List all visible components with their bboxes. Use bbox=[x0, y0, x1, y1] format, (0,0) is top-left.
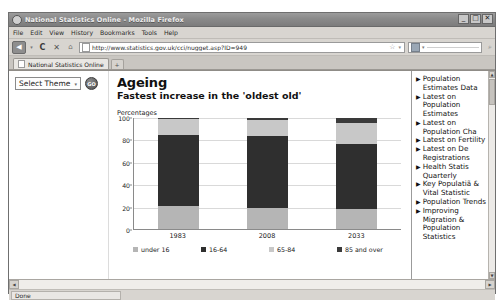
chart-segment-2008-65-84 bbox=[247, 120, 289, 136]
menu-item-view[interactable]: View bbox=[49, 29, 64, 36]
legend-label: 65-84 bbox=[277, 246, 295, 253]
navigation-toolbar: ◀ ▾ C ✕ ⌂ http://www.statistics.gov.uk/c… bbox=[9, 39, 495, 56]
reload-icon[interactable]: C bbox=[37, 42, 48, 53]
chart-x-tick-2008: 2008 bbox=[222, 232, 311, 240]
chevron-down-icon: ▾ bbox=[74, 81, 77, 87]
scroll-down-arrow-icon[interactable]: ▼ bbox=[489, 272, 495, 279]
center-panel: Ageing Fastest increase in the 'oldest o… bbox=[109, 71, 411, 279]
menu-item-tools[interactable]: Tools bbox=[142, 29, 157, 36]
triangle-bullet-icon: ▶ bbox=[416, 145, 421, 153]
close-button[interactable]: ✕ bbox=[482, 14, 493, 24]
chart-y-tick-60: 60 bbox=[122, 159, 130, 166]
legend-swatch-icon bbox=[201, 247, 206, 252]
menu-bar: File Edit View History Bookmarks Tools H… bbox=[9, 27, 495, 39]
search-engine-dropdown-icon[interactable]: ▾ bbox=[422, 44, 425, 50]
sidebar-link-label: Latest on Population Cha bbox=[423, 119, 487, 137]
menu-item-history[interactable]: History bbox=[71, 29, 93, 36]
chart-bar-slot-1983 bbox=[134, 118, 223, 229]
sidebar-scrollbar[interactable]: ▲ ▼ bbox=[488, 71, 495, 279]
sidebar-link-2[interactable]: ▶Latest on Population Cha bbox=[416, 119, 487, 137]
chart-segment-2033-16-64 bbox=[336, 144, 378, 210]
chart-bar-2033 bbox=[336, 118, 378, 229]
status-text: Done bbox=[11, 291, 121, 300]
theme-selector-row: Select Theme ▾ GO bbox=[15, 77, 104, 90]
sidebar-link-label: Latest on Population Estimates bbox=[423, 93, 487, 119]
triangle-bullet-icon: ▶ bbox=[416, 136, 421, 144]
chart-legend-item-under-16: under 16 bbox=[133, 246, 201, 253]
url-bar-actions: ☆ ▾ bbox=[389, 43, 402, 51]
sidebar-scroll-thumb[interactable] bbox=[489, 79, 495, 105]
sidebar-link-label: Improving Migration & Population Statist… bbox=[423, 207, 487, 242]
page-favicon-icon bbox=[82, 43, 90, 52]
horizontal-scrollbar[interactable]: ◀ ▶ bbox=[9, 279, 495, 289]
maximize-button[interactable]: □ bbox=[470, 14, 481, 24]
chart-legend-item-85-and-over: 85 and over bbox=[337, 246, 405, 253]
chart-y-tickmark-40 bbox=[130, 185, 132, 186]
sidebar-link-1[interactable]: ▶Latest on Population Estimates bbox=[416, 93, 487, 119]
maximize-icon: □ bbox=[472, 15, 479, 22]
stop-icon[interactable]: ✕ bbox=[51, 42, 62, 53]
chart-segment-1983-65-84 bbox=[158, 119, 200, 135]
chart-y-tickmark-0 bbox=[130, 230, 132, 231]
sidebar-link-5[interactable]: ▶Health Statis Quarterly bbox=[416, 163, 487, 181]
select-theme-dropdown[interactable]: Select Theme ▾ bbox=[15, 77, 81, 90]
back-dropdown-icon[interactable]: ▾ bbox=[29, 42, 34, 53]
chart-segment-2008-16-64 bbox=[247, 136, 289, 208]
url-input[interactable]: http://www.statistics.gov.uk/cci/nugget.… bbox=[92, 44, 387, 51]
close-icon: ✕ bbox=[485, 15, 491, 22]
url-bar[interactable]: http://www.statistics.gov.uk/cci/nugget.… bbox=[79, 42, 405, 53]
tab-strip: National Statistics Online + bbox=[9, 56, 495, 70]
sidebar-link-8[interactable]: ▶Improving Migration & Population Statis… bbox=[416, 207, 487, 242]
back-button[interactable]: ◀ bbox=[12, 41, 26, 54]
new-tab-button[interactable]: + bbox=[111, 59, 124, 69]
chart-y-tick-80: 80 bbox=[122, 137, 130, 144]
chart-segment-1983-under-16 bbox=[158, 206, 200, 229]
right-sidebar: ▶Population Estimates Data▶Latest on Pop… bbox=[411, 71, 495, 279]
menu-item-file[interactable]: File bbox=[13, 29, 23, 36]
search-icon[interactable]: ⌕ bbox=[485, 43, 492, 51]
bookmark-star-icon[interactable]: ☆ bbox=[389, 43, 395, 51]
left-panel: Select Theme ▾ GO bbox=[9, 71, 109, 279]
window-titlebar: National Statistics Online - Mozilla Fir… bbox=[9, 13, 495, 27]
chart-segment-1983-16-64 bbox=[158, 135, 200, 206]
sidebar-link-label: Health Statis Quarterly bbox=[423, 163, 487, 181]
scroll-left-arrow-icon[interactable]: ◀ bbox=[9, 280, 19, 289]
horizontal-scroll-track[interactable] bbox=[19, 280, 485, 289]
scroll-right-arrow-icon[interactable]: ▶ bbox=[485, 280, 495, 289]
legend-label: under 16 bbox=[141, 246, 169, 253]
legend-swatch-icon bbox=[133, 247, 138, 252]
chart-y-tickmark-20 bbox=[130, 207, 132, 208]
triangle-bullet-icon: ▶ bbox=[416, 75, 421, 83]
url-dropdown-icon[interactable]: ▾ bbox=[398, 44, 401, 50]
chart-y-tick-20: 20 bbox=[122, 204, 130, 211]
window-controls: _ □ ✕ bbox=[458, 14, 493, 24]
tab-label: National Statistics Online bbox=[28, 61, 104, 68]
chart-plot-area bbox=[133, 118, 401, 230]
sidebar-link-6[interactable]: ▶Key Populatiã & Vital Statistic bbox=[416, 180, 487, 198]
go-button[interactable]: GO bbox=[85, 77, 98, 90]
chart-segment-2008-under-16 bbox=[247, 208, 289, 229]
triangle-bullet-icon: ▶ bbox=[416, 163, 421, 171]
chart-y-tick-40: 40 bbox=[122, 182, 130, 189]
tab-national-statistics-online[interactable]: National Statistics Online bbox=[13, 58, 109, 69]
minimize-button[interactable]: _ bbox=[458, 14, 469, 24]
chart-y-tickmark-100 bbox=[130, 118, 132, 119]
legend-swatch-icon bbox=[337, 247, 342, 252]
go-button-label: GO bbox=[87, 81, 95, 87]
status-bar: Done bbox=[9, 289, 495, 300]
sidebar-link-0[interactable]: ▶Population Estimates Data bbox=[416, 75, 487, 93]
menu-item-help[interactable]: Help bbox=[164, 29, 178, 36]
triangle-bullet-icon: ▶ bbox=[416, 207, 421, 215]
menu-item-edit[interactable]: Edit bbox=[30, 29, 42, 36]
search-engine-icon[interactable] bbox=[411, 43, 420, 52]
scroll-up-arrow-icon[interactable]: ▲ bbox=[489, 71, 495, 78]
page-title: Ageing bbox=[117, 76, 405, 90]
sidebar-link-4[interactable]: ▶Latest on De Registrations bbox=[416, 145, 487, 163]
chart-y-tick-100: 100 bbox=[118, 115, 130, 122]
home-icon[interactable]: ⌂ bbox=[65, 42, 76, 53]
search-bar[interactable]: ▾ bbox=[408, 42, 482, 53]
menu-item-bookmarks[interactable]: Bookmarks bbox=[100, 29, 135, 36]
sidebar-link-label: Population Estimates Data bbox=[423, 75, 487, 93]
search-input[interactable] bbox=[427, 47, 479, 48]
chart-bars bbox=[134, 118, 401, 229]
